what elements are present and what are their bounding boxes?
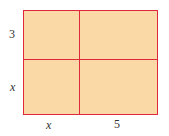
label-left-bottom: x (10, 81, 15, 93)
label-bottom-left: x (46, 119, 51, 131)
label-bottom-right: 5 (114, 118, 120, 130)
label-left-top: 3 (9, 28, 15, 40)
vertical-divider (79, 11, 80, 114)
horizontal-divider (24, 59, 157, 60)
area-rectangle (23, 10, 158, 115)
